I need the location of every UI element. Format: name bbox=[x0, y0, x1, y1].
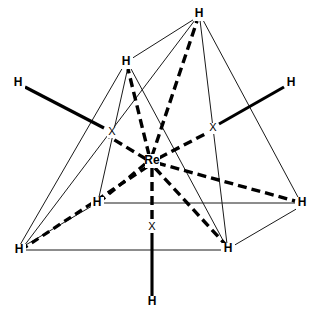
atom-label-re: Re bbox=[144, 153, 160, 167]
axis-marker-x-left: X bbox=[108, 125, 116, 137]
atom-label-h-mid-left: H bbox=[93, 195, 102, 209]
bond-re-to-hbottomleft bbox=[24, 167, 147, 248]
axis-marker-x-right: X bbox=[209, 121, 217, 133]
atom-label-h-bottom-left: H bbox=[15, 242, 24, 256]
bond-re-to-xleft bbox=[108, 136, 146, 159]
polyhedron-edges bbox=[20, 18, 299, 250]
bond-xleft-to-hleft bbox=[25, 87, 104, 128]
atom-label-h-left: H bbox=[14, 75, 23, 89]
axis-marker-x-bottom: X bbox=[148, 220, 156, 232]
atom-label-h-bottom: H bbox=[148, 294, 157, 308]
bond-xright-to-hright bbox=[219, 87, 284, 124]
atom-label-h-bottom-inner: H bbox=[224, 241, 233, 255]
bond-re-to-xright bbox=[159, 133, 207, 158]
chemical-structure-diagram: H H H H H H H H H Re X X X bbox=[0, 0, 317, 321]
atom-label-h-top: H bbox=[195, 6, 204, 20]
atom-label-h-upper-left: H bbox=[122, 54, 131, 68]
structure-svg: H H H H H H H H H Re X X X bbox=[0, 0, 317, 321]
atom-label-h-right: H bbox=[287, 75, 296, 89]
edge-top-to-upperleft bbox=[131, 18, 196, 59]
edge-midright-to-bottominner bbox=[233, 208, 298, 246]
edge-top-to-midright bbox=[203, 20, 299, 199]
bond-re-to-hmidright bbox=[157, 163, 295, 201]
atom-label-h-mid-right: H bbox=[298, 195, 307, 209]
